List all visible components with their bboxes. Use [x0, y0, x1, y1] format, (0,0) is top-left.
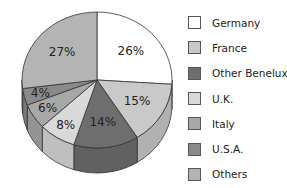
legend-swatch	[188, 143, 201, 156]
legend-label: France	[212, 42, 247, 54]
legend: Germany France Other Benelux U.K. Italy …	[188, 10, 287, 187]
legend-swatch	[188, 117, 201, 130]
legend-swatch	[188, 16, 201, 29]
legend-label: Italy	[212, 118, 235, 130]
slice-value-label: 8%	[56, 118, 75, 132]
slice-value-label: 6%	[38, 101, 57, 115]
slice-value-label: 14%	[89, 115, 116, 129]
slice-value-label: 26%	[118, 44, 145, 58]
legend-label: Germany	[212, 17, 260, 29]
legend-swatch	[188, 67, 201, 80]
legend-item-others: Others	[188, 162, 287, 187]
legend-item-italy: Italy	[188, 111, 287, 136]
legend-label: Others	[212, 168, 247, 180]
legend-item-france: France	[188, 35, 287, 60]
legend-label: U.S.A.	[212, 143, 243, 155]
legend-label: U.K.	[212, 93, 233, 105]
legend-swatch	[188, 92, 201, 105]
legend-label: Other Benelux	[212, 67, 287, 79]
legend-swatch	[188, 168, 201, 181]
legend-swatch	[188, 41, 201, 54]
legend-item-usa: U.S.A.	[188, 136, 287, 161]
slice-value-label: 15%	[124, 94, 151, 108]
slice-value-label: 4%	[31, 86, 50, 100]
slice-value-label: 27%	[49, 45, 76, 59]
legend-item-germany: Germany	[188, 10, 287, 35]
legend-item-uk: U.K.	[188, 86, 287, 111]
pie-chart: 26%15%14%8%6%4%27%	[0, 0, 180, 188]
legend-item-other-benelux: Other Benelux	[188, 61, 287, 86]
